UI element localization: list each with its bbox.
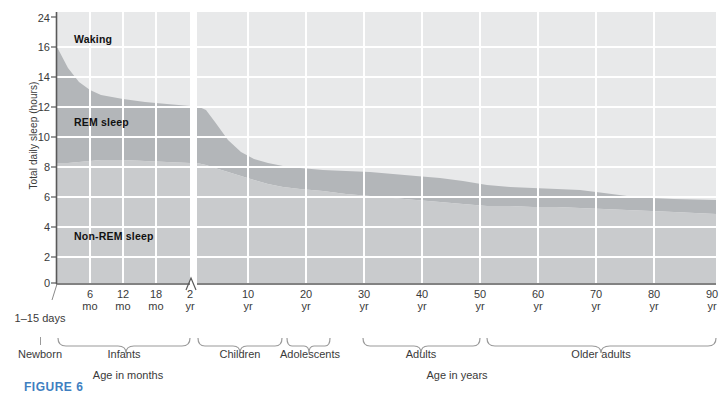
x-axis-title-months: Age in months: [68, 369, 188, 381]
age-group-adolescents: Adolescents: [275, 348, 345, 360]
x-tick-40yr: 40 yr: [402, 288, 442, 312]
band-label-nonrem: Non-REM sleep: [74, 230, 154, 242]
x-tick-2yr-value: 2: [170, 288, 210, 300]
x-tick-20yr: 20 yr: [286, 288, 326, 312]
age-group-children: Children: [209, 348, 271, 360]
x-tick-50yr: 50 yr: [460, 288, 500, 312]
band-label-rem: REM sleep: [74, 116, 129, 128]
x-tick-40yr-value: 40: [402, 288, 442, 300]
x-tick-30yr-value: 30: [344, 288, 384, 300]
newborn-leader-line: [47, 284, 57, 300]
age-group-adults: Adults: [393, 348, 449, 360]
x-tick-10yr-value: 10: [228, 288, 268, 300]
x-axis-break-gap: [190, 12, 197, 283]
age-group-older-adults: Older adults: [555, 348, 647, 360]
x-tick-10yr: 10 yr: [228, 288, 268, 312]
x-tick-70yr: 70 yr: [576, 288, 616, 312]
x-tick-80yr-value: 80: [634, 288, 674, 300]
x-tick-90yr-value: 90: [692, 288, 726, 300]
x-tick-90yr: 90 yr: [692, 288, 726, 312]
x-tick-2yr: 2 yr: [170, 288, 210, 312]
x-tick-80yr: 80 yr: [634, 288, 674, 312]
x-tick-60yr-value: 60: [518, 288, 558, 300]
x-tick-50yr-value: 50: [460, 288, 500, 300]
band-label-waking: Waking: [74, 33, 112, 45]
x-tick-20yr-value: 20: [286, 288, 326, 300]
age-group-infants: Infants: [94, 348, 154, 360]
x-tick-30yr: 30 yr: [344, 288, 384, 312]
figure-caption: FIGURE 6: [24, 380, 83, 394]
age-group-brackets: [0, 310, 726, 370]
x-tick-60yr: 60 yr: [518, 288, 558, 312]
x-tick-70yr-value: 70: [576, 288, 616, 300]
x-axis-title-years: Age in years: [402, 369, 512, 381]
plot-svg: [0, 0, 726, 300]
plot-panel-years: [197, 12, 716, 283]
